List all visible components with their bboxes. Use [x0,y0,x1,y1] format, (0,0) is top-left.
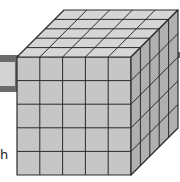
left-bar [0,55,18,92]
cube-figure [0,0,180,182]
cube-diagram: h [0,0,180,182]
front-face [17,57,131,175]
dimension-label-h: h [0,148,8,161]
left-bar-inner [0,62,15,86]
cube-faces [17,10,178,175]
